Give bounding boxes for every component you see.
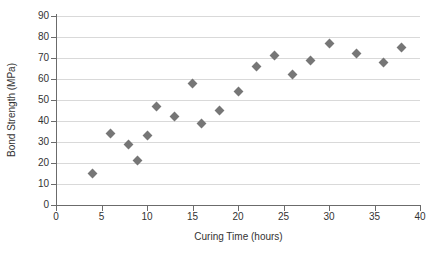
y-tick-label: 40: [5, 116, 49, 126]
gridline-y-40: [56, 121, 420, 122]
gridline-y-60: [56, 79, 420, 80]
y-tick-label: 60: [5, 74, 49, 84]
y-tick-label: 20: [5, 158, 49, 168]
x-tick-label: 0: [41, 212, 71, 222]
data-point: [106, 129, 116, 139]
y-tick-label: 80: [5, 32, 49, 42]
y-tick-label: 50: [5, 95, 49, 105]
data-point: [324, 38, 334, 48]
x-tick-label: 25: [269, 212, 299, 222]
y-tick-30: [51, 142, 56, 143]
data-point: [251, 61, 261, 71]
y-tick-label: 0: [5, 200, 49, 210]
x-tick-label: 15: [178, 212, 208, 222]
data-point: [151, 101, 161, 111]
x-tick-label: 40: [405, 212, 435, 222]
y-tick-80: [51, 37, 56, 38]
y-tick-label-wrap-80: 80: [0, 32, 49, 42]
y-tick-label-wrap-60: 60: [0, 74, 49, 84]
plot-area: [56, 16, 420, 205]
y-tick-label-wrap-40: 40: [0, 116, 49, 126]
y-tick-50: [51, 100, 56, 101]
data-point: [197, 118, 207, 128]
gridline-y-30: [56, 142, 420, 143]
y-tick-10: [51, 184, 56, 185]
data-point: [87, 169, 97, 179]
y-tick-60: [51, 79, 56, 80]
data-point: [397, 43, 407, 53]
gridline-y-80: [56, 37, 420, 38]
x-tick-label: 35: [360, 212, 390, 222]
y-tick-label: 10: [5, 179, 49, 189]
y-tick-label-wrap-90: 90: [0, 11, 49, 21]
gridline-y-20: [56, 163, 420, 164]
y-tick-70: [51, 58, 56, 59]
data-point: [269, 51, 279, 61]
y-tick-40: [51, 121, 56, 122]
y-tick-label-wrap-70: 70: [0, 53, 49, 63]
y-tick-label-wrap-10: 10: [0, 179, 49, 189]
gridline-y-90: [56, 16, 420, 17]
y-tick-label: 70: [5, 53, 49, 63]
gridline-y-50: [56, 100, 420, 101]
data-point: [133, 156, 143, 166]
y-axis-line: [56, 14, 57, 207]
x-tick-label: 20: [223, 212, 253, 222]
x-axis-title: Curing Time (hours): [56, 231, 421, 243]
x-tick-label: 5: [87, 212, 117, 222]
data-point: [142, 131, 152, 141]
gridline-y-70: [56, 58, 420, 59]
y-tick-label-wrap-0: 0: [0, 200, 49, 210]
y-tick-90: [51, 16, 56, 17]
data-point: [233, 87, 243, 97]
data-point: [306, 55, 316, 65]
x-tick-label: 30: [314, 212, 344, 222]
y-tick-label: 30: [5, 137, 49, 147]
y-tick-label-wrap-20: 20: [0, 158, 49, 168]
x-tick-label: 10: [132, 212, 162, 222]
y-tick-label-wrap-50: 50: [0, 95, 49, 105]
data-point: [215, 106, 225, 116]
scatter-chart: Bond Strength (MPa) Curing Time (hours) …: [0, 0, 439, 254]
y-tick-label-wrap-30: 30: [0, 137, 49, 147]
y-tick-20: [51, 163, 56, 164]
y-tick-label: 90: [5, 11, 49, 21]
data-point: [124, 139, 134, 149]
gridline-y-10: [56, 184, 420, 185]
